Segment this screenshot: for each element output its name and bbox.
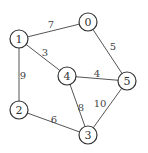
edge-weight-label: 6 (51, 114, 57, 125)
graph-svg: 753498106 012345 (0, 0, 148, 153)
node-4: 4 (58, 67, 76, 85)
weighted-graph-diagram: 753498106 012345 (0, 0, 148, 153)
node-label: 1 (16, 33, 23, 46)
edge-weight-label: 4 (94, 68, 100, 79)
node-label: 0 (85, 16, 92, 29)
node-3: 3 (79, 126, 97, 144)
nodes-group: 012345 (10, 13, 136, 144)
node-label: 3 (85, 129, 92, 142)
node-label: 4 (64, 70, 71, 83)
edge-weight-label: 3 (42, 47, 48, 58)
node-label: 5 (124, 75, 131, 88)
edge-weight-label: 8 (78, 102, 84, 113)
edge-weight-label: 10 (94, 98, 107, 109)
node-5: 5 (118, 72, 136, 90)
edge-weight-label: 5 (110, 41, 116, 52)
node-label: 2 (16, 104, 23, 117)
edge-weight-label: 9 (20, 70, 26, 81)
node-0: 0 (79, 13, 97, 31)
node-2: 2 (10, 101, 28, 119)
edge-weight-label: 7 (48, 19, 54, 30)
node-1: 1 (10, 30, 28, 48)
